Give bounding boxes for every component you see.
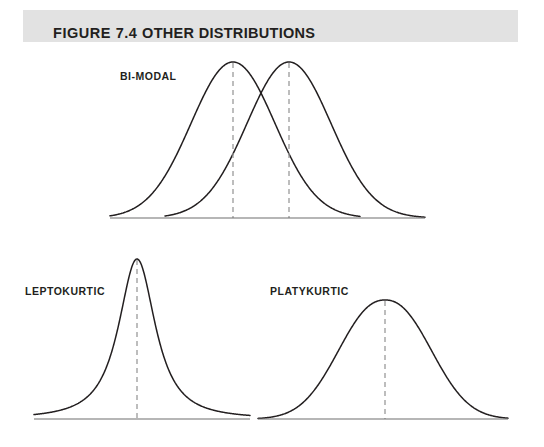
panel-label-leptokurtic: LEPTOKURTIC (25, 286, 105, 297)
curve-leptokurtic-curve (34, 259, 250, 415)
curve-platykurtic-curve (258, 300, 508, 418)
panel-platykurtic (258, 300, 508, 419)
curve-mode-1 (110, 62, 360, 216)
panel-leptokurtic (34, 259, 250, 419)
panel-label-bimodal: BI-MODAL (120, 71, 177, 82)
curve-mode-2 (165, 62, 425, 217)
curves-group (34, 62, 508, 419)
distributions-figure (0, 0, 544, 447)
panel-label-platykurtic: PLATYKURTIC (270, 286, 349, 297)
panel-bimodal (110, 62, 425, 218)
